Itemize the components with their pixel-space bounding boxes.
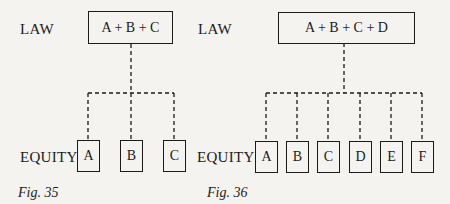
fig35-law-box: A + B + C: [88, 11, 173, 44]
fig36-equity-box-d: D: [349, 141, 372, 173]
fig36-caption: Fig. 36: [207, 185, 247, 201]
fig35-equity-box-c: C: [163, 140, 186, 172]
fig36-law-box: A + B + C + D: [278, 12, 415, 44]
fig35-law-label: LAW: [20, 22, 54, 37]
fig35-equity-box-a: A: [77, 140, 100, 172]
fig35-equity-box-b: B: [120, 140, 143, 172]
fig36-law-label: LAW: [198, 22, 232, 37]
fig35-caption: Fig. 35: [18, 185, 58, 201]
fig36-equity-box-b: B: [286, 141, 309, 173]
fig36-equity-label: EQUITY: [197, 150, 255, 165]
fig36-equity-box-a: A: [255, 141, 278, 173]
fig36-equity-box-f: F: [411, 141, 434, 173]
fig36-equity-box-c: C: [317, 141, 340, 173]
fig36-equity-box-e: E: [380, 141, 403, 173]
fig35-equity-label: EQUITY: [20, 150, 78, 165]
